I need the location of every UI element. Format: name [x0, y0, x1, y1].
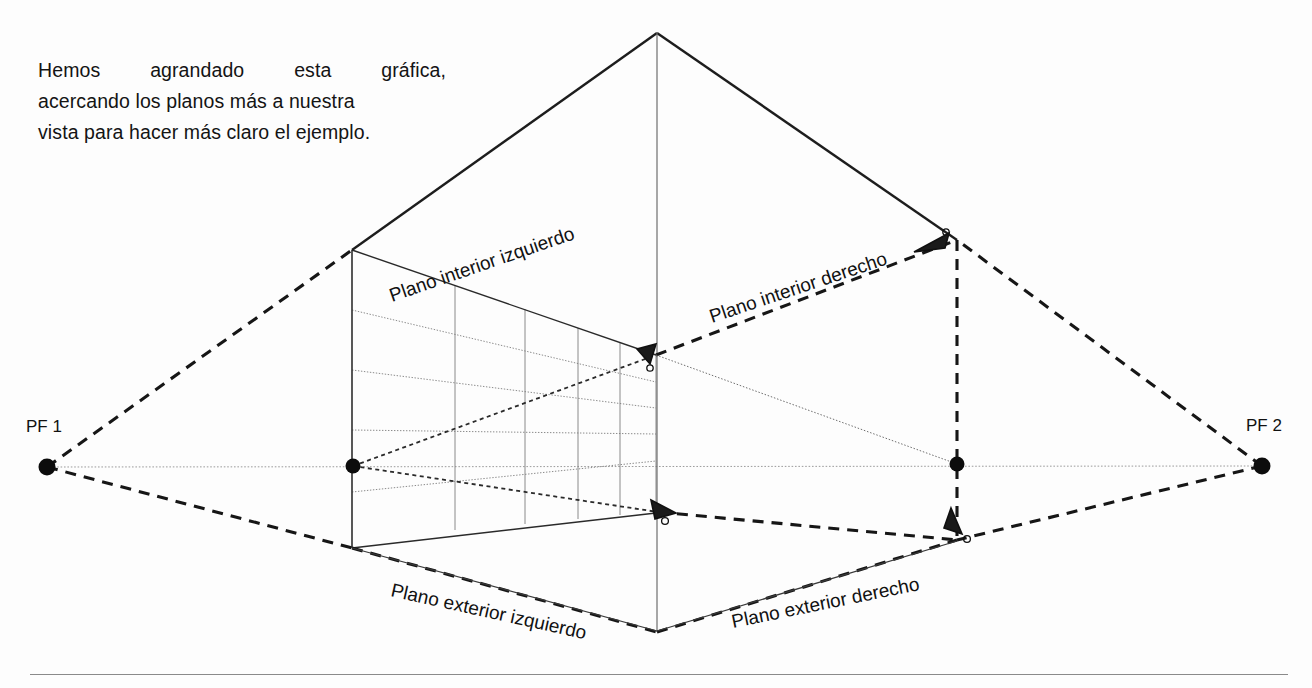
pf1-inner-construction-lines	[353, 355, 658, 512]
note-line-2: acercando los planos más a nuestra	[38, 86, 446, 117]
pf2-to-top-right	[957, 240, 1262, 466]
grid-horizontal	[352, 370, 656, 408]
vanishing-point-dot-pf2	[1254, 458, 1271, 475]
pf1-to-bottom-left	[47, 467, 352, 548]
pf1-dot-to-center-bottom	[353, 466, 658, 512]
note-line-1: Hemos agrandado esta gráfica,	[38, 55, 446, 86]
angle-marker-center-bottom-dot	[662, 518, 669, 525]
right-plane-top-edge	[656, 240, 957, 355]
angle-marker-right-top	[914, 233, 949, 252]
plane-label-exterior-izquierdo: Plano exterior izquierdo	[389, 579, 588, 643]
angle-marker-center-top-dot	[647, 365, 653, 371]
note-word: Hemos	[38, 55, 100, 86]
pf1-to-top-left	[47, 250, 352, 467]
pf2-to-bottom-right	[957, 466, 1262, 540]
grid-horizontal	[352, 461, 656, 492]
left-plane-bottom-edge	[352, 513, 656, 548]
grid-horizontal	[352, 310, 656, 382]
explanatory-note: Hemos agrandado esta gráfica, acercando …	[38, 55, 446, 148]
horizon-line	[47, 466, 1262, 467]
pf1-construction-lines	[47, 250, 352, 548]
vanishing-point-label-pf1: PF 1	[26, 417, 62, 436]
plane-label-interior-derecho: Plano interior derecho	[707, 248, 890, 327]
station-dot-right	[950, 457, 965, 472]
note-word: esta	[294, 55, 331, 86]
right-plane-bottom-edge	[658, 512, 957, 540]
note-line-3: vista para hacer más claro el ejemplo.	[38, 117, 446, 148]
station-dot-left	[346, 459, 361, 474]
right-plane-helpers	[656, 355, 957, 464]
grid-horizontal	[352, 430, 656, 434]
angle-marker-center-top	[637, 344, 656, 364]
footer-divider	[30, 674, 1288, 675]
apex-right-edge	[657, 33, 957, 240]
plane-label-interior-izquierdo: Plano interior izquierdo	[386, 223, 577, 306]
plane-label-exterior-derecho: Plano exterior derecho	[730, 573, 922, 632]
angle-marker-center-bottom	[651, 500, 676, 519]
vanishing-point-label-pf2: PF 2	[1246, 416, 1282, 435]
right-plane-diagonal	[656, 355, 957, 464]
note-word: agrandado	[150, 55, 244, 86]
angle-marker-right-bottom	[944, 508, 962, 534]
note-word: gráfica,	[381, 55, 446, 86]
diagram-page: PF 1 PF 2 Plano interior izquierdo Plano…	[0, 0, 1312, 688]
pf2-construction-lines	[957, 240, 1262, 540]
vanishing-point-dot-pf1	[39, 459, 56, 476]
pf1-dot-to-center-top	[353, 355, 656, 466]
